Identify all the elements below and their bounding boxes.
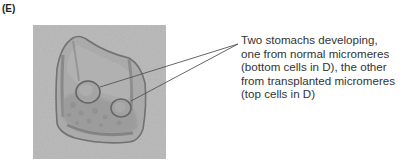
embryo-micrograph [33, 25, 166, 159]
panel-label: (E) [2, 3, 15, 14]
annotation-caption: Two stomachs developing, one from normal… [241, 33, 412, 101]
